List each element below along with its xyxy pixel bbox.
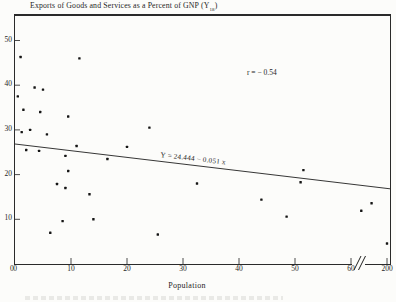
y-tick-label: 10 — [0, 214, 12, 222]
data-point — [148, 126, 150, 128]
x-tick-label: 20 — [123, 265, 131, 273]
data-point — [75, 145, 77, 147]
data-point — [285, 215, 287, 217]
data-point — [61, 220, 63, 222]
data-point — [46, 133, 48, 135]
data-point — [39, 111, 41, 113]
x-tick-label: 200 — [381, 265, 392, 273]
data-point — [38, 150, 40, 152]
data-point — [299, 181, 301, 183]
chart-title: Exports of Goods and Services as a Perce… — [30, 1, 218, 10]
chart-title-text: Exports of Goods and Services as a Perce… — [30, 1, 209, 10]
data-point — [49, 232, 51, 234]
data-point — [21, 131, 23, 133]
data-point — [157, 233, 159, 235]
x-tick-label: 50 — [291, 265, 299, 273]
y-tick-label: 20 — [0, 170, 12, 178]
data-point — [88, 193, 90, 195]
origin-tick-label: 0 — [10, 265, 14, 273]
data-point — [260, 198, 262, 200]
x-tick-label: 40 — [235, 265, 243, 273]
data-point — [126, 146, 128, 148]
data-point — [42, 88, 44, 90]
data-point — [196, 182, 198, 184]
x-axis-title: Population — [168, 281, 206, 290]
y-tick-label: 50 — [0, 36, 12, 44]
data-point — [19, 56, 21, 58]
data-point — [302, 169, 304, 171]
plot-area: r = − 0.54 Y = 24.444 − 0.051 x — [14, 14, 391, 265]
data-point — [25, 149, 27, 151]
data-point — [64, 155, 66, 157]
chart-title-close-paren: ) — [215, 1, 218, 10]
data-point — [56, 183, 58, 185]
cropped-caption-remnant — [25, 296, 283, 300]
data-point — [64, 187, 66, 189]
data-point — [33, 86, 35, 88]
x-tick-label: 30 — [179, 265, 187, 273]
data-point — [106, 158, 108, 160]
data-point — [78, 57, 80, 59]
y-tick-label: 40 — [0, 80, 12, 88]
data-point — [17, 95, 19, 97]
data-point — [22, 109, 24, 111]
data-point — [370, 202, 372, 204]
y-tick-label: 30 — [0, 125, 12, 133]
regression-line — [15, 144, 390, 189]
x-tick-label: 10 — [67, 265, 75, 273]
data-point — [386, 242, 388, 244]
data-point — [67, 115, 69, 117]
scatter-canvas — [15, 16, 390, 264]
data-point — [67, 170, 69, 172]
correlation-annotation: r = − 0.54 — [247, 68, 277, 77]
data-point — [92, 218, 94, 220]
data-point — [360, 210, 362, 212]
scatter-plot-figure: Exports of Goods and Services as a Perce… — [0, 0, 396, 302]
x-tick-label: 60 — [347, 265, 355, 273]
data-point — [29, 129, 31, 131]
